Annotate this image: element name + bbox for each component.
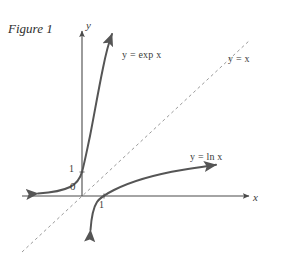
y-axis-tick-label-one: 1 <box>69 164 74 174</box>
x-axis-label: x <box>253 192 258 203</box>
y-axis-label: y <box>86 20 91 31</box>
ln-curve-label: y = ln x <box>190 152 223 162</box>
identity-line-dashed <box>22 40 250 252</box>
figure-caption: Figure 1 <box>8 22 53 35</box>
origin-label: 0 <box>70 181 76 192</box>
figure-container: Figure 1 y x y = exp x y = ln x y = x 1 … <box>0 0 282 257</box>
plot-canvas <box>0 0 282 257</box>
identity-line-label: y = x <box>228 54 250 64</box>
x-axis-tick-label-one: 1 <box>99 200 104 210</box>
exp-curve <box>38 34 112 194</box>
exp-curve-label: y = exp x <box>122 50 161 60</box>
ln-curve <box>91 165 217 230</box>
